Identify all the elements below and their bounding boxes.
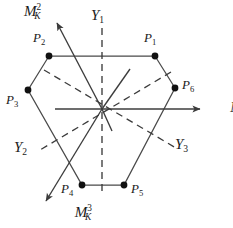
axis-mk3-line xyxy=(46,109,102,201)
axis-label-mk2: M2K xyxy=(24,4,47,19)
vertex-dot-p3 xyxy=(25,87,32,94)
axis-label-y2: Y2 xyxy=(14,140,27,155)
point-label-p1: P1 xyxy=(144,31,156,44)
point-label-p6-sub: 6 xyxy=(190,84,194,94)
point-label-p6-base: P xyxy=(182,77,190,92)
point-label-p3: P3 xyxy=(6,93,18,106)
axis-label-mk1: M1K xyxy=(230,100,233,115)
axis-label-y1-sub: 1 xyxy=(99,14,104,25)
axis-label-mk3-sub: K xyxy=(85,212,91,222)
point-label-p5-sub: 5 xyxy=(139,188,143,198)
axis-label-mk3: M3K xyxy=(75,205,98,220)
vertex-dot-p4 xyxy=(79,182,86,189)
point-label-p3-sub: 3 xyxy=(14,99,18,109)
axis-label-mk2-sub: K xyxy=(34,11,40,21)
axis-label-y3: Y3 xyxy=(175,137,188,152)
axis-y2-dashed-line xyxy=(40,72,171,150)
figure-canvas: M2K M1K M3K Y1 Y2 Y3 P1 P2 P3 P4 P5 P6 xyxy=(0,0,233,228)
vertex-dot-p6 xyxy=(172,85,179,92)
point-label-p3-base: P xyxy=(6,92,14,107)
point-label-p6: P6 xyxy=(182,78,194,91)
axis-label-y3-sub: 3 xyxy=(183,143,188,154)
point-label-p4-base: P xyxy=(61,181,69,196)
point-label-p2: P2 xyxy=(33,31,45,44)
point-label-p2-sub: 2 xyxy=(41,37,45,47)
vertex-dot-p5 xyxy=(121,182,128,189)
vertex-dot-p1 xyxy=(152,53,159,60)
point-label-p2-base: P xyxy=(33,30,41,45)
axis-label-y1: Y1 xyxy=(91,8,104,23)
point-label-p1-sub: 1 xyxy=(152,37,156,47)
point-label-p1-base: P xyxy=(144,30,152,45)
point-label-p5: P5 xyxy=(131,182,143,195)
vertex-dot-p2 xyxy=(46,53,53,60)
axis-label-mk1-base: M xyxy=(230,99,233,115)
spoke-upper-right xyxy=(102,69,130,109)
point-label-p4: P4 xyxy=(61,182,73,195)
point-label-p4-sub: 4 xyxy=(69,188,73,198)
axis-mk2-line xyxy=(57,23,102,109)
point-label-p5-base: P xyxy=(131,181,139,196)
axis-label-y2-sub: 2 xyxy=(22,146,27,157)
